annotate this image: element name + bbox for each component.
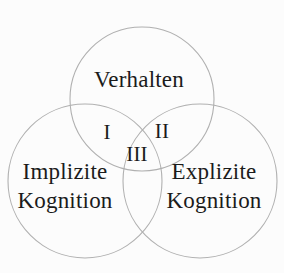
set-label-verhalten: Verhalten	[94, 65, 184, 94]
set-label-implizite-kognition: Implizite Kognition	[17, 157, 112, 215]
region-label-3: III	[126, 144, 148, 165]
venn-diagram: Verhalten Implizite Kognition Explizite …	[0, 0, 284, 273]
set-label-explizite-kognition: Explizite Kognition	[166, 157, 261, 215]
set-label-explizite-line2: Kognition	[166, 186, 261, 215]
set-label-implizite-line1: Implizite	[17, 157, 112, 186]
region-label-1: I	[103, 122, 110, 143]
region-label-2: II	[155, 121, 169, 142]
set-label-implizite-line2: Kognition	[17, 186, 112, 215]
venn-circles-canvas	[0, 0, 284, 273]
set-label-explizite-line1: Explizite	[166, 157, 261, 186]
